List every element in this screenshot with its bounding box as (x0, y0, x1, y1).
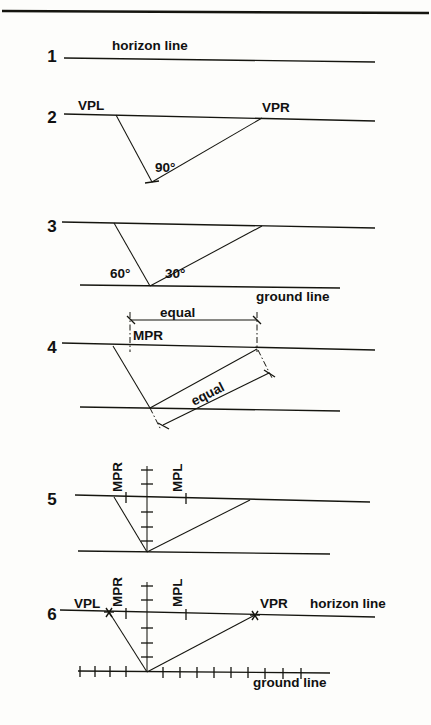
panel-4-left-edge-line (113, 346, 150, 408)
panel-3-ground-line-label: ground line (256, 289, 330, 304)
panel-6-left-ray (109, 612, 147, 672)
panel-6-ground-line-label: ground line (253, 675, 327, 690)
panel-4-equal-diag-upper-arrow (264, 370, 275, 377)
panel-1-number: 1 (47, 47, 56, 66)
panel-2-angle-90-label: 90° (155, 160, 175, 175)
panel-2-number: 2 (47, 108, 56, 127)
panel-5-number: 5 (47, 490, 56, 509)
panel-4-equal-horizontal-label: equal (160, 305, 195, 320)
panel-6-ground-line (78, 671, 330, 673)
panel-5-mpr-label: MPR (110, 462, 125, 492)
panel-3-horizon-line (62, 222, 375, 228)
panel-6: 6 VPL MPR MPL VPR horizon line ground li… (47, 577, 386, 690)
panel-6-horizon-line-label: horizon line (310, 596, 386, 611)
panel-2-horizon-line (64, 114, 375, 121)
panel-3-angle-30-label: 30° (165, 266, 185, 281)
panel-1-horizon-line-label: horizon line (112, 38, 188, 53)
frame-top-border (2, 11, 429, 13)
panel-6-mpr-label: MPR (110, 577, 125, 607)
panel-4-left-diagonal-drop (150, 408, 161, 430)
panel-5-ground-line (78, 551, 330, 554)
panel-6-vpr-label: VPR (260, 596, 288, 611)
panel-3-ground-line (80, 285, 340, 288)
panel-1: 1 horizon line (47, 38, 375, 66)
panel-6-number: 6 (47, 605, 56, 624)
panel-4: 4 equal MPR equal (47, 305, 375, 430)
perspective-diagram-figure: 1 horizon line 2 VPL VPR 90° 3 60° 3 (0, 0, 431, 725)
panel-3: 3 60° 30° ground line (47, 217, 375, 304)
panel-4-number: 4 (47, 338, 57, 357)
panel-5-right-ray (147, 500, 250, 552)
panel-4-horizon-line (62, 343, 375, 350)
panel-3-angle-60-label: 60° (110, 266, 130, 281)
panel-6-mpl-label: MPL (170, 579, 185, 608)
panel-4-mpr-label: MPR (133, 328, 163, 343)
panel-5-left-ray (114, 497, 147, 552)
panel-5-mpl-label: MPL (170, 464, 185, 493)
panel-2: 2 VPL VPR 90° (47, 98, 375, 183)
panel-6-vpl-label: VPL (74, 596, 100, 611)
panel-2-vpr-label: VPR (262, 100, 290, 115)
diagram-canvas: 1 horizon line 2 VPL VPR 90° 3 60° 3 (0, 0, 431, 725)
panel-5: 5 MPR MPL (47, 462, 370, 554)
panel-2-left-ray (116, 115, 152, 182)
panel-2-vpl-label: VPL (78, 98, 104, 113)
panel-3-number: 3 (47, 217, 56, 236)
panel-1-horizon-line (64, 58, 375, 62)
panel-6-right-ray (147, 615, 255, 672)
panel-4-lower-line (80, 407, 340, 411)
panel-5-horizon-line (75, 495, 370, 502)
